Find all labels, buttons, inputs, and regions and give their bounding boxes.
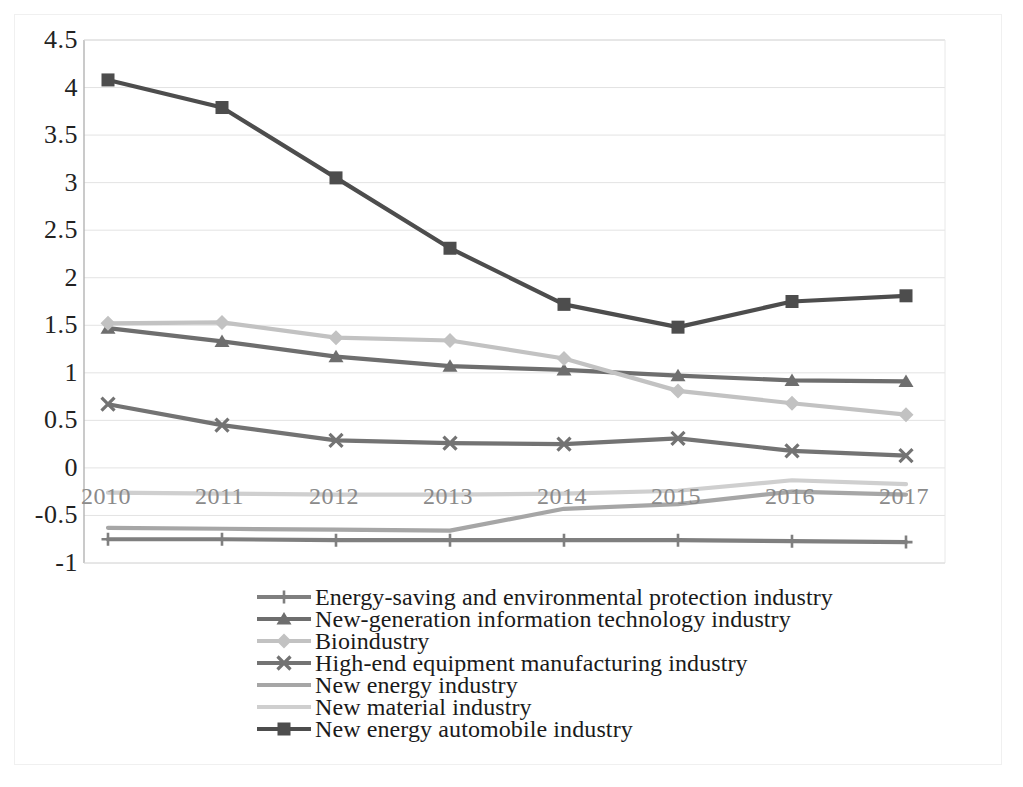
chart-figure: 4.543.532.521.510.50-0.5-1 2010201120122… — [0, 0, 1023, 787]
plus-marker — [278, 591, 291, 604]
square-marker — [278, 723, 291, 736]
legend-item[interactable]: High-end equipment manufacturing industr… — [255, 652, 855, 674]
legend-label: Bioindustry — [313, 630, 429, 652]
x-tick-label: 2012 — [309, 484, 359, 508]
legend-item[interactable]: New energy automobile industry — [255, 718, 855, 740]
legend-item[interactable]: New material industry — [255, 696, 855, 718]
line-marker — [255, 697, 313, 717]
x-tick-label: 2015 — [651, 484, 701, 508]
line-marker — [255, 675, 313, 695]
diamond-marker — [255, 631, 313, 651]
legend-label: New material industry — [313, 696, 532, 718]
legend-item[interactable]: New energy industry — [255, 674, 855, 696]
legend-item[interactable]: Bioindustry — [255, 630, 855, 652]
x-marker — [255, 653, 313, 673]
legend-label: Energy-saving and environmental protecti… — [313, 586, 833, 608]
square-marker — [255, 719, 313, 739]
x-tick-label: 2016 — [765, 484, 815, 508]
chart-legend: Energy-saving and environmental protecti… — [255, 586, 855, 740]
legend-label: New energy automobile industry — [313, 718, 633, 740]
plus-marker — [255, 587, 313, 607]
legend-label: New energy industry — [313, 674, 518, 696]
legend-label: High-end equipment manufacturing industr… — [313, 652, 748, 674]
legend-item[interactable]: New-generation information technology in… — [255, 608, 855, 630]
legend-label: New-generation information technology in… — [313, 608, 791, 630]
x-tick-label: 2013 — [423, 484, 473, 508]
x-tick-label: 2014 — [537, 484, 587, 508]
x-tick-label: 2010 — [81, 484, 131, 508]
diamond-marker — [277, 634, 292, 649]
triangle-marker — [255, 609, 313, 629]
legend-item[interactable]: Energy-saving and environmental protecti… — [255, 586, 855, 608]
x-tick-label: 2011 — [195, 484, 244, 508]
x-tick-label: 2017 — [879, 484, 929, 508]
